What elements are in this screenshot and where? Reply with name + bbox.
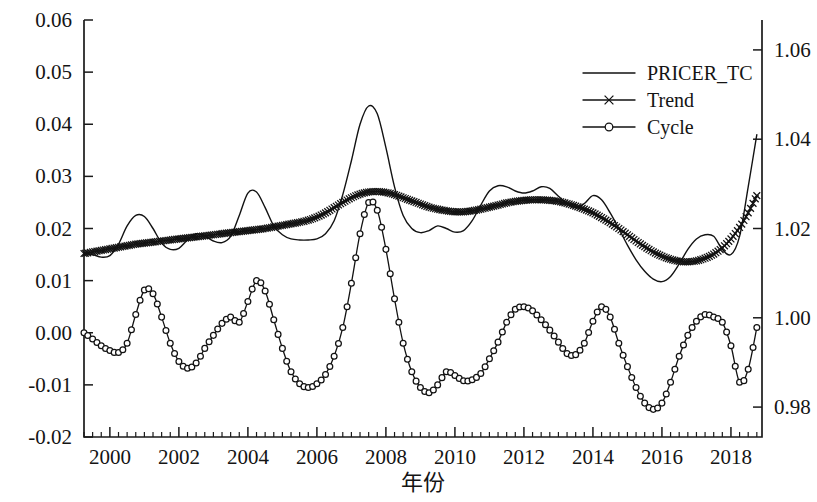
data-marker-circle [633,385,639,391]
x-tick-label: 2006 [296,445,338,469]
data-marker-circle [625,364,631,370]
data-marker-circle [538,317,544,323]
y-right-tick-label: 1.04 [774,127,811,151]
data-marker-circle [374,207,380,213]
legend-label: Trend [647,89,694,111]
data-marker-circle [728,343,734,349]
x-tick-label: 2018 [710,445,752,469]
data-marker-circle [672,366,678,372]
data-marker-circle [607,314,613,320]
data-marker-circle [392,296,398,302]
x-tick-label: 2014 [572,445,615,469]
data-marker-circle [405,356,411,362]
data-marker-circle [267,301,273,307]
data-marker-circle [409,369,415,375]
y-left-tick-label: 0.03 [35,164,72,188]
y-left-tick-label: 0.05 [35,60,72,84]
data-marker-circle [241,311,247,317]
data-marker-circle [754,325,760,331]
data-marker-circle [146,286,152,292]
data-marker-circle [327,364,333,370]
data-marker-circle [689,325,695,331]
data-marker-circle [603,306,609,312]
legend-entry-trend[interactable]: Trend [583,89,694,111]
x-tick-label: 2002 [158,445,200,469]
data-marker-circle [198,353,204,359]
data-marker-circle [379,224,385,230]
data-marker-circle [344,304,350,310]
data-marker-circle [560,346,566,352]
y-left-tick-label: 0.00 [35,321,72,345]
data-marker-circle [495,339,501,345]
data-marker-circle [482,364,488,370]
data-marker-circle [478,371,484,377]
data-marker-circle [318,377,324,383]
data-marker-circle [556,339,562,345]
data-marker-circle [258,280,264,286]
x-tick-label: 2012 [503,445,545,469]
data-marker-circle [129,327,135,333]
data-marker-circle [590,318,596,324]
data-marker-circle [340,325,346,331]
data-marker-circle [331,353,337,359]
data-marker-circle [547,327,553,333]
data-marker-circle [663,391,669,397]
data-marker-circle [357,231,363,237]
y-left-tick-label: -0.01 [28,373,72,397]
data-marker-circle [594,309,600,315]
data-marker-circle [659,400,665,406]
data-marker-circle [133,312,139,318]
data-marker-circle [577,347,583,353]
data-marker-circle [150,291,156,297]
data-marker-circle [284,358,290,364]
data-marker-circle [370,199,376,205]
data-marker-circle [750,345,756,351]
y-right-tick-label: 1.02 [774,217,811,241]
data-marker-circle [685,332,691,338]
legend-entry-cycle[interactable]: Cycle [583,116,694,139]
chart-figure: -0.02-0.010.000.010.020.030.040.050.060.… [0,0,817,502]
y-right-tick-label: 1.06 [774,38,811,62]
data-marker-circle [413,378,419,384]
data-marker-circle [292,376,298,382]
data-marker-circle [612,326,618,332]
data-marker-circle [210,332,216,338]
y-left-tick-label: 0.01 [35,269,72,293]
data-marker-circle [620,352,626,358]
y-left-tick-label: 0.02 [35,217,72,241]
data-marker-circle [176,359,182,365]
data-marker-circle [586,330,592,336]
data-marker-circle [275,331,281,337]
data-marker-circle [137,297,143,303]
data-marker-circle [430,387,436,393]
data-marker-circle [435,382,441,388]
data-marker-circle [154,301,160,307]
data-marker-circle [167,340,173,346]
data-marker-circle [543,322,549,328]
data-marker-circle [439,375,445,381]
data-marker-circle [215,326,221,332]
data-marker-circle [280,345,286,351]
data-marker-circle [206,339,212,345]
data-marker-circle [249,286,255,292]
x-tick-label: 2008 [365,445,407,469]
data-marker-circle [383,246,389,252]
data-marker-circle [262,288,268,294]
data-marker-circle [193,360,199,366]
data-marker-circle [534,312,540,318]
series-cycle [81,199,760,412]
x-tick-label: 2016 [641,445,683,469]
data-marker-circle [732,363,738,369]
data-marker-circle [349,280,355,286]
data-marker-circle [551,333,557,339]
y-right-tick-label: 1.00 [774,306,811,330]
data-marker-circle [387,271,393,277]
data-marker-circle [504,319,510,325]
data-marker-circle [120,347,126,353]
data-series-group [81,105,761,412]
legend-entry-pricer-tc[interactable]: PRICER_TC [583,62,753,84]
data-marker-circle [655,405,661,411]
y-left-tick-label: 0.04 [35,112,72,136]
data-marker-circle [581,340,587,346]
data-marker-circle [616,340,622,346]
